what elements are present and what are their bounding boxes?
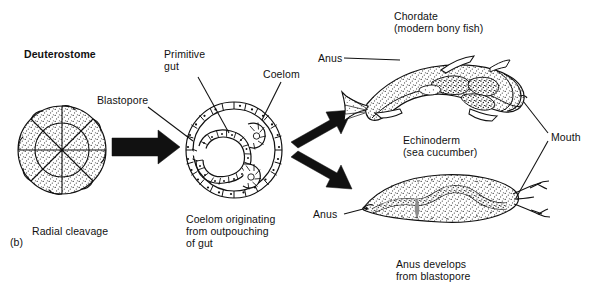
leader-anus-echinoderm bbox=[344, 208, 367, 214]
echinoderm-caption-line1: Anus develops bbox=[396, 258, 466, 271]
mouth-label: Mouth bbox=[551, 131, 581, 144]
echinoderm-sea-cucumber bbox=[363, 175, 550, 223]
figure-artwork bbox=[0, 0, 592, 296]
radial-cleavage-embryo bbox=[18, 106, 106, 195]
chordate-bony-fish bbox=[342, 56, 527, 121]
leader-mouth-chordate bbox=[523, 101, 548, 133]
blastopore-label: Blastopore bbox=[97, 94, 148, 107]
echinoderm-name-line1: Echinoderm bbox=[403, 134, 460, 147]
leader-anus-chordate bbox=[344, 58, 400, 60]
branch-arrows bbox=[291, 110, 352, 189]
chordate-name-line1: Chordate bbox=[394, 10, 438, 23]
echinoderm-name-line2: (sea cucumber) bbox=[403, 146, 477, 159]
coelom-label: Coelom bbox=[263, 68, 300, 81]
gastrula-diagram bbox=[186, 102, 282, 198]
gastrula-caption-line3: of gut bbox=[186, 237, 213, 250]
page-title: Deuterostome bbox=[24, 48, 96, 61]
gastrula-caption-line1: Coelom originating bbox=[186, 213, 275, 226]
radial-cleavage-caption: Radial cleavage bbox=[32, 225, 108, 238]
arrow-to-echinoderm bbox=[291, 151, 352, 189]
anus-label-chordate: Anus bbox=[318, 52, 342, 65]
deuterostome-development-figure: Deuterostome Radial cleavage (b) Blastop… bbox=[0, 0, 592, 296]
primitive-gut-label-line1: Primitive bbox=[164, 48, 205, 61]
arrow-to-chordate bbox=[291, 110, 352, 148]
anus-label-echinoderm: Anus bbox=[313, 208, 337, 221]
echinoderm-caption-line2: from blastopore bbox=[396, 270, 470, 283]
panel-label: (b) bbox=[10, 236, 23, 249]
leader-coelom bbox=[262, 82, 281, 120]
leader-mouth-echinoderm bbox=[516, 141, 548, 198]
arrow-embryo-to-gastrula bbox=[112, 130, 180, 164]
gastrula-caption-line2: from outpouching bbox=[186, 225, 269, 238]
chordate-name-line2: (modern bony fish) bbox=[394, 22, 483, 35]
primitive-gut-label-line2: gut bbox=[164, 60, 179, 73]
leader-blastopore bbox=[148, 107, 193, 141]
